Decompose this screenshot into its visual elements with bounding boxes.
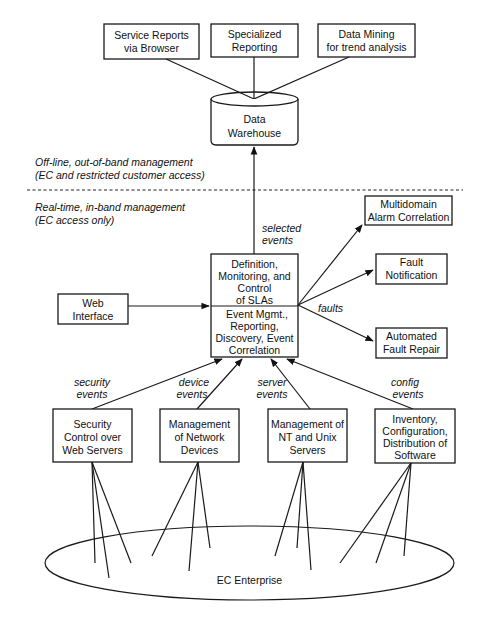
sla-text-line4: of SLAs (236, 294, 273, 306)
service-reports-box: Service Reports via Browser (104, 24, 199, 59)
nt-unix-servers-line1: Management of (271, 418, 344, 430)
service-reports-line1: Service Reports (114, 29, 189, 41)
network-devices-line2: of Network (174, 431, 225, 443)
nt-unix-servers-line2: NT and Unix (278, 431, 337, 443)
servers-fanout-lines (275, 462, 311, 570)
specialized-reporting-line1: Specialized (228, 28, 282, 40)
inventory-line2: Configuration, (382, 425, 447, 437)
network-devices-box: Management of Network Devices (160, 409, 239, 462)
sla-text-line1: Definition, (231, 258, 278, 270)
web-interface-line2: Interface (73, 310, 114, 322)
config-events-label-line1: config (391, 376, 419, 388)
data-mining-line2: for trend analysis (327, 41, 407, 53)
event-mgmt-line1: Event Mgmt., (226, 308, 288, 320)
inventory-line1: Inventory, (392, 413, 437, 425)
device-events-label-line2: events (177, 388, 209, 400)
multidomain-alarm-box: Multidomain Alarm Correlation (365, 196, 452, 225)
server-events-label-line2: events (257, 388, 289, 400)
inventory-line3: Distribution of (383, 437, 447, 449)
specialized-reporting-box: Specialized Reporting (211, 24, 298, 57)
sla-text-line2: Monitoring, and (218, 270, 291, 282)
inventory-fanout-lines (340, 463, 411, 563)
warehouse-line1: Data (243, 113, 265, 125)
ec-management-architecture-diagram: Service Reports via Browser Specialized … (0, 0, 481, 619)
inventory-line4: Software (394, 449, 436, 461)
arrow-to-fault-notification (298, 270, 373, 305)
nt-unix-servers-line3: Servers (289, 444, 325, 456)
connector-service-reports (166, 59, 254, 99)
fault-repair-line1: Automated (386, 330, 437, 342)
web-interface-box: Web Interface (58, 294, 128, 324)
data-mining-box: Data Mining for trend analysis (318, 24, 415, 57)
fault-notification-line2: Notification (386, 269, 438, 281)
security-fanout-lines (92, 462, 131, 578)
realtime-zone-line1: Real-time, in-band management (35, 201, 186, 213)
security-control-line2: Control over (64, 431, 122, 443)
event-mgmt-line2: Reporting, (230, 320, 278, 332)
service-reports-line2: via Browser (124, 42, 179, 54)
nt-unix-servers-box: Management of NT and Unix Servers (268, 409, 347, 462)
event-mgmt-line4: Correlation (229, 344, 281, 356)
arrow-to-multidomain (298, 225, 362, 305)
fault-notification-box: Fault Notification (376, 254, 447, 284)
automated-fault-repair-box: Automated Fault Repair (376, 328, 447, 358)
device-events-label-line1: device (179, 376, 210, 388)
multidomain-line2: Alarm Correlation (368, 211, 450, 223)
data-mining-line1: Data Mining (338, 28, 394, 40)
server-events-label-line1: server (257, 376, 287, 388)
config-events-label-line2: events (393, 388, 425, 400)
security-control-box: Security Control over Web Servers (53, 409, 132, 462)
event-mgmt-line3: Discovery, Event (216, 332, 294, 344)
network-devices-line3: Devices (181, 444, 218, 456)
security-events-label-line2: events (77, 388, 109, 400)
central-sla-event-box: Definition, Monitoring, and Control of S… (211, 254, 298, 357)
offline-zone-line1: Off-line, out-of-band management (35, 156, 194, 168)
offline-zone-line2: (EC and restricted customer access) (35, 169, 205, 181)
fault-repair-line2: Fault Repair (383, 343, 441, 355)
ec-enterprise-label: EC Enterprise (217, 574, 283, 586)
network-devices-line1: Management (169, 418, 230, 430)
security-events-label-line1: security (74, 376, 111, 388)
selected-events-label-line1: selected (262, 222, 302, 234)
security-control-line1: Security (74, 418, 113, 430)
data-warehouse-cylinder: Data Warehouse (211, 92, 298, 145)
warehouse-line2: Warehouse (228, 127, 281, 139)
security-control-line3: Web Servers (62, 444, 123, 456)
realtime-zone-line2: (EC access only) (35, 214, 114, 226)
network-fanout-lines (152, 462, 210, 571)
sla-text-line3: Control (238, 282, 272, 294)
specialized-reporting-line2: Reporting (232, 41, 278, 53)
inventory-configuration-box: Inventory, Configuration, Distribution o… (375, 409, 455, 463)
faults-label: faults (318, 302, 344, 314)
multidomain-line1: Multidomain (380, 198, 437, 210)
fault-notification-line1: Fault (400, 256, 423, 268)
web-interface-line1: Web (82, 297, 104, 309)
selected-events-label-line2: events (262, 234, 294, 246)
